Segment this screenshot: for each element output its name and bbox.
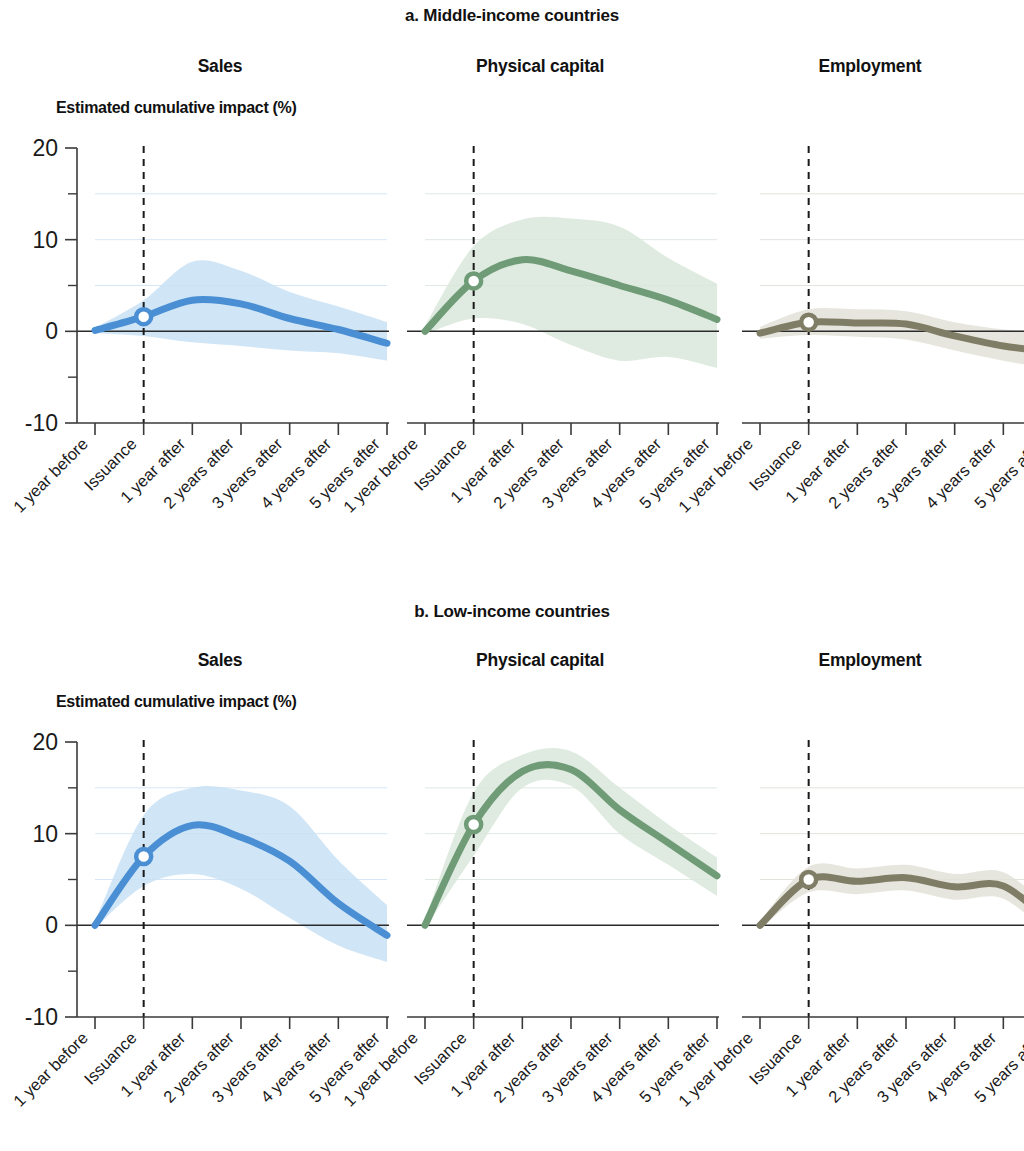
- chart-panel-b-employment: 1 year beforeIssuance1 year after2 years…: [0, 719, 1024, 1149]
- chart-svg: 1 year beforeIssuance1 year after2 years…: [0, 719, 1024, 1149]
- panel-title-a-sales: Sales: [110, 56, 330, 77]
- issuance-data-marker[interactable]: [801, 315, 816, 330]
- confidence-band: [760, 863, 1024, 938]
- chart-svg: 1 year beforeIssuance1 year after2 years…: [0, 125, 1024, 555]
- figure-root: a. Middle-income countries Sales Physica…: [0, 0, 1024, 1151]
- section-title-a: a. Middle-income countries: [0, 6, 1024, 26]
- x-tick-label: 1 year before: [675, 1028, 756, 1109]
- axis-caption-b: Estimated cumulative impact (%): [56, 693, 297, 711]
- confidence-band: [760, 308, 1024, 369]
- chart-panel-a-employment: 1 year beforeIssuance1 year after2 years…: [0, 125, 1024, 555]
- issuance-data-marker[interactable]: [801, 872, 816, 887]
- panel-title-b-sales: Sales: [110, 650, 330, 671]
- panel-title-a-physical-capital: Physical capital: [400, 56, 680, 77]
- x-tick-label: 1 year before: [675, 434, 756, 515]
- panel-title-b-physical-capital: Physical capital: [400, 650, 680, 671]
- section-title-b: b. Low-income countries: [0, 602, 1024, 622]
- panel-title-b-employment: Employment: [740, 650, 1000, 671]
- panel-title-a-employment: Employment: [740, 56, 1000, 77]
- axis-caption-a: Estimated cumulative impact (%): [56, 99, 297, 117]
